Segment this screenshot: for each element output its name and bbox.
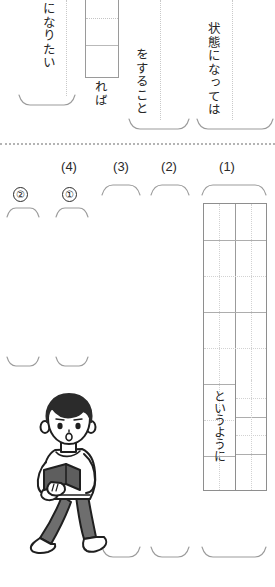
- answer-bracket-surukoto: [128, 118, 190, 132]
- answer-field-q2[interactable]: [150, 196, 190, 551]
- grid-inline-text: というように: [209, 390, 226, 482]
- answer-bracket-circled1-bottom: [55, 356, 89, 368]
- answer-field-circled1[interactable]: [55, 219, 89, 355]
- phrase-reba: れば: [92, 80, 106, 120]
- worksheet-page: になりたい れば をすること 状態になっては (4) (3) (2) (1) ②…: [0, 0, 275, 587]
- answer-bracket-circled2-top: [6, 206, 40, 218]
- phrase-joutai: 状態になっては: [205, 22, 219, 122]
- phrase-surukoto: をすること: [133, 48, 147, 120]
- phrase-naritai: になりたい: [40, 2, 54, 98]
- answer-bracket-q1-top: [201, 183, 267, 196]
- question-label-2: (2): [149, 159, 189, 174]
- answer-bracket-q2-top: [150, 183, 190, 196]
- circled-number-1: ①: [62, 187, 77, 202]
- answer-bracket-naritai: [18, 94, 76, 108]
- writing-grid-q1-lower[interactable]: [235, 380, 267, 491]
- answer-field-circled2[interactable]: [6, 219, 40, 355]
- answer-bracket-q2-bottom: [150, 546, 190, 559]
- answer-bracket-q3-top: [101, 183, 141, 196]
- answer-bracket-circled1-top: [55, 206, 89, 218]
- illustration-boy-walking-with-book: [18, 392, 123, 566]
- guide-dotted-line-joutai: [232, 0, 233, 120]
- answer-bracket-q1-bottom: [201, 546, 267, 559]
- guide-dotted-line-naritai: [66, 0, 67, 96]
- question-label-4: (4): [49, 159, 89, 174]
- answer-bracket-circled2-bottom: [6, 356, 40, 368]
- guide-dotted-line-surukoto: [160, 0, 161, 120]
- question-label-3: (3): [101, 159, 141, 174]
- circled-number-2: ②: [13, 187, 28, 202]
- answer-box-reba[interactable]: [85, 0, 119, 78]
- question-label-1: (1): [207, 159, 247, 174]
- answer-bracket-joutai: [196, 118, 274, 132]
- section-separator: [0, 143, 275, 145]
